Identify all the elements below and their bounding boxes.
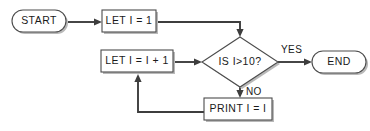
node-decision[interactable]: IS I>10?	[202, 37, 280, 89]
node-decision-label: IS I>10?	[218, 55, 261, 67]
node-increment[interactable]: LET I = I + 1	[101, 50, 175, 74]
node-print-label: PRINT I = I	[210, 102, 267, 114]
node-end-label: END	[327, 55, 351, 67]
edge-init-to-decision	[156, 22, 244, 37]
node-init-label: LET I = 1	[106, 14, 153, 26]
node-print[interactable]: PRINT I = I	[204, 98, 274, 122]
edge-decision-yes-to-end	[278, 58, 312, 65]
node-increment-label: LET I = I + 1	[105, 54, 168, 66]
edge-increment-to-decision	[175, 58, 202, 65]
node-end[interactable]: END	[312, 51, 368, 75]
node-start[interactable]: START	[12, 10, 68, 34]
flowchart-diagram: START LET I = 1 LET I = I + 1 IS I>10? P…	[0, 0, 370, 131]
node-init[interactable]: LET I = 1	[102, 10, 158, 34]
edge-label-yes: YES	[281, 44, 302, 55]
node-start-label: START	[21, 14, 57, 26]
edge-label-no: NO	[246, 86, 262, 97]
edge-print-to-increment-loop	[134, 74, 204, 112]
edge-start-to-init	[68, 18, 102, 25]
